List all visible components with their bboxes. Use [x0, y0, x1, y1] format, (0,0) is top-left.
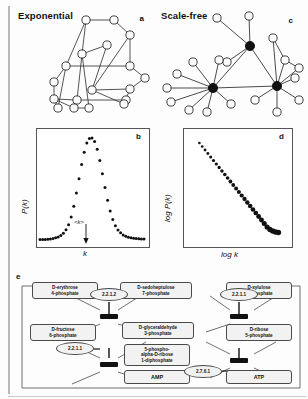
metabolite-prpp[interactable]: 5-phospho- alpha-D-ribose 1-diphosphate — [124, 344, 190, 366]
panel-d-points — [183, 128, 291, 246]
enzyme-label: 2.2.1.1 — [68, 346, 82, 351]
enzyme-ec-2-7-6-1[interactable]: 2.7.6.1 — [184, 365, 222, 378]
metabolite-d-glyceraldehyde-3-phosphate[interactable]: D-glyceraldehyde 3-phosphate — [122, 322, 194, 339]
panel-b-mean-annotation: <k> — [74, 219, 84, 225]
metabolite-d-sedoheptulose-7-phosphate[interactable]: D-sedoheptulose 7-phosphate — [120, 282, 192, 299]
panel-c-title: Scale-free — [161, 10, 207, 21]
metabolite-label: AMP — [151, 374, 163, 380]
pathway-diagram: D-erythrose 4-phosphate D-sedoheptulose … — [14, 280, 308, 394]
panel-a-letter: a — [140, 14, 144, 23]
scalefree-network-graph — [155, 4, 305, 118]
panel-c-letter: c — [289, 16, 293, 25]
figure-canvas: Exponential a — [0, 0, 308, 399]
panel-a-title: Exponential — [18, 10, 73, 21]
metabolite-d-fructose-6-phosphate[interactable]: D-fructose 6-phosphate — [30, 324, 96, 341]
panel-d-powerlaw-distribution: log P(k) d log k — [155, 122, 305, 270]
metabolite-d-ribose-5-phosphate[interactable]: D-ribose 5-phosphate — [226, 324, 292, 341]
page-bottom-rule — [8, 396, 306, 397]
metabolite-label: 5-phospho- alpha-D-ribose 1-diphosphate — [141, 347, 173, 363]
panel-d-ylabel: log P(k) — [163, 194, 172, 222]
enzyme-label: 2.2.1.2 — [102, 292, 116, 297]
enzyme-ec-2-2-1-1-bottom[interactable]: 2.2.1.1 — [56, 342, 94, 355]
exponential-network-graph — [14, 4, 152, 118]
metabolite-label: D-erythrose 4-phosphate — [51, 285, 78, 296]
panel-d-xlabel: log k — [221, 250, 238, 259]
panel-b-degree-distribution: P(k) b <k> k — [14, 122, 152, 270]
metabolite-label: D-glyceraldehyde 3-phosphate — [139, 325, 177, 336]
metabolite-label: ATP — [254, 374, 264, 380]
enzyme-label: 2.2.1.1 — [232, 292, 246, 297]
enzyme-ec-2-2-1-1-top[interactable]: 2.2.1.1 — [220, 288, 258, 301]
metabolite-amp[interactable]: AMP — [124, 370, 190, 384]
panel-a-exponential-network: Exponential a — [14, 4, 152, 118]
metabolite-label: D-ribose 5-phosphate — [245, 327, 272, 338]
metabolite-label: D-fructose 6-phosphate — [49, 327, 76, 338]
panel-e-metabolic-pathway: e — [14, 272, 308, 396]
panel-b-curve — [36, 128, 148, 246]
enzyme-ec-2-2-1-2[interactable]: 2.2.1.2 — [90, 288, 128, 301]
metabolite-d-erythrose-4-phosphate[interactable]: D-erythrose 4-phosphate — [32, 282, 98, 299]
panel-b-xlabel: k — [83, 249, 87, 258]
panel-b-ylabel: P(k) — [20, 199, 29, 214]
enzyme-label: 2.7.6.1 — [196, 369, 210, 374]
metabolite-label: D-sedoheptulose 7-phosphate — [137, 285, 174, 296]
panel-c-scalefree-network: Scale-free c — [155, 4, 305, 118]
metabolite-atp[interactable]: ATP — [226, 370, 292, 384]
page-left-rule — [8, 6, 10, 394]
